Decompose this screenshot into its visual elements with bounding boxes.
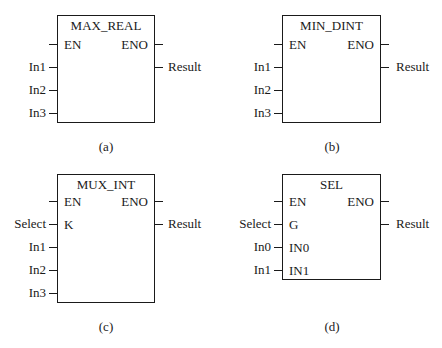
- wire-in3: [49, 293, 57, 294]
- wire-en: [49, 201, 57, 202]
- block-box: MAX_REAL EN ENO: [57, 15, 155, 123]
- caption-c: (c): [86, 319, 126, 335]
- pin-en-label: EN: [64, 38, 81, 52]
- input-in1-label: In1: [29, 60, 46, 74]
- pin-eno-label: ENO: [347, 38, 374, 52]
- block-title: MAX_REAL: [58, 18, 154, 34]
- wire-result: [381, 224, 389, 225]
- block-box: MUX_INT EN ENO K: [57, 174, 155, 303]
- wire-en: [274, 201, 282, 202]
- input-select-label: Select: [14, 217, 46, 231]
- pin-eno-label: ENO: [121, 38, 148, 52]
- pin-en-label: EN: [289, 38, 306, 52]
- input-in3-label: In3: [29, 286, 46, 300]
- pin-eno-label: ENO: [121, 195, 148, 209]
- wire-result: [155, 224, 163, 225]
- wire-in0: [274, 247, 282, 248]
- block-title: MUX_INT: [58, 177, 154, 193]
- pin-g-label: G: [289, 218, 298, 232]
- wire-in2: [49, 90, 57, 91]
- input-in3-label: In3: [29, 106, 46, 120]
- wire-en: [274, 44, 282, 45]
- wire-in1: [49, 67, 57, 68]
- wire-eno: [155, 201, 163, 202]
- wire-eno: [381, 201, 389, 202]
- input-in1-label: In1: [254, 60, 271, 74]
- input-in2-label: In2: [29, 263, 46, 277]
- wire-result: [381, 67, 389, 68]
- caption-a: (a): [86, 139, 126, 155]
- block-box: MIN_DINT EN ENO: [282, 15, 381, 123]
- wire-in1: [274, 67, 282, 68]
- wire-in3: [274, 113, 282, 114]
- output-result-label: Result: [396, 217, 429, 231]
- wire-in2: [49, 270, 57, 271]
- pin-in0-label: IN0: [289, 241, 309, 255]
- input-in1-label: In1: [254, 263, 271, 277]
- input-select-label: Select: [239, 217, 271, 231]
- wire-result: [155, 67, 163, 68]
- pin-eno-label: ENO: [347, 195, 374, 209]
- wire-select: [49, 224, 57, 225]
- wire-eno: [381, 44, 389, 45]
- output-result-label: Result: [168, 60, 201, 74]
- output-result-label: Result: [396, 60, 429, 74]
- wire-in1: [49, 247, 57, 248]
- output-result-label: Result: [168, 217, 201, 231]
- wire-in1: [274, 270, 282, 271]
- wire-eno: [155, 44, 163, 45]
- input-in2-label: In2: [254, 83, 271, 97]
- block-title: SEL: [283, 177, 380, 193]
- wire-in3: [49, 113, 57, 114]
- caption-b: (b): [312, 139, 352, 155]
- wire-select: [274, 224, 282, 225]
- pin-en-label: EN: [64, 195, 81, 209]
- block-box: SEL EN ENO G IN0 IN1: [282, 174, 381, 280]
- pin-k-label: K: [64, 218, 73, 232]
- block-title: MIN_DINT: [283, 18, 380, 34]
- input-in3-label: In3: [254, 106, 271, 120]
- wire-in2: [274, 90, 282, 91]
- pin-in1-label: IN1: [289, 264, 309, 278]
- pin-en-label: EN: [289, 195, 306, 209]
- wire-en: [49, 44, 57, 45]
- caption-d: (d): [312, 319, 352, 335]
- input-in0-label: In0: [254, 240, 271, 254]
- input-in2-label: In2: [29, 83, 46, 97]
- input-in1-label: In1: [29, 240, 46, 254]
